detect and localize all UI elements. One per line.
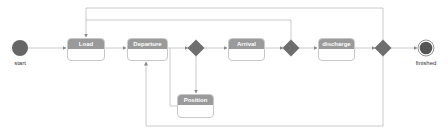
start-label: start [0,60,40,66]
state-position-label: Position [178,95,213,105]
end-node[interactable] [420,42,433,55]
state-load-label: Load [68,39,104,49]
diagram-canvas [0,0,448,135]
state-arrival[interactable]: Arrival [228,38,265,61]
decision-node-2[interactable] [283,40,300,57]
state-departure[interactable]: Departure [127,38,168,61]
state-arrival-label: Arrival [229,39,264,49]
state-discharge-label: discharge [319,39,354,49]
edge-decision3-load [86,8,383,40]
decision-node-3[interactable] [375,40,392,57]
end-label: finished [406,60,446,66]
state-position[interactable]: Position [177,94,214,118]
edge-decision2-load [86,20,291,40]
state-load[interactable]: Load [67,38,105,61]
start-node[interactable] [12,40,28,56]
edge-departure-position [170,48,177,106]
decision-node-1[interactable] [188,40,205,57]
state-discharge[interactable]: discharge [318,38,355,61]
state-departure-label: Departure [128,39,167,49]
